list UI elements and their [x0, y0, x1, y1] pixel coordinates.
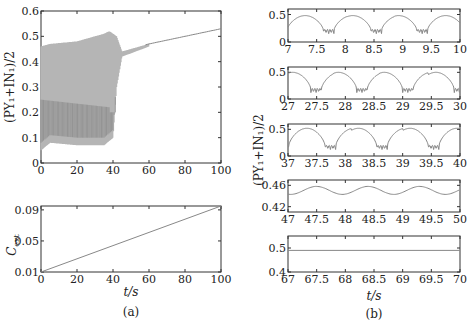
chart-figure: 02040608010000.10.20.30.40.50.6 02040608…	[0, 0, 469, 324]
x-tick-label: 80	[178, 164, 192, 177]
x-tick-label: 47.5	[304, 213, 329, 226]
caption-b: (b)	[365, 307, 382, 321]
y-tick-label: 0.5	[22, 30, 40, 43]
cext-line	[41, 206, 221, 272]
time-series-line	[288, 16, 460, 34]
x-tick-label: 37.5	[304, 157, 329, 170]
y-tick-label: 0.1	[22, 132, 40, 145]
steady-curve	[145, 29, 221, 45]
x-tick-label: 47	[281, 213, 295, 226]
x-tick-label: 48.5	[362, 213, 387, 226]
x-tick-label: 69.5	[419, 273, 444, 286]
x-tick-label: 67.5	[304, 273, 329, 286]
plot-frame	[288, 236, 460, 272]
x-tick-label: 30	[453, 100, 467, 113]
panel-a-top-plot: 02040608010000.10.20.30.40.50.6	[22, 5, 232, 177]
x-tick-label: 40	[106, 164, 120, 177]
y-tick-label: 0.6	[22, 5, 40, 18]
y-tick-label: 0.2	[22, 106, 40, 119]
x-tick-label: 49	[396, 213, 410, 226]
x-tick-label: 8.5	[365, 43, 383, 56]
x-tick-label: 39	[396, 157, 410, 170]
y-tick-label: 0	[279, 36, 286, 49]
x-tick-label: 7.5	[308, 43, 326, 56]
plot-frame	[288, 9, 460, 42]
y-tick-label: 0.5	[269, 123, 287, 136]
a-ylabel: (PY₁+IN₁)/2	[3, 51, 17, 123]
x-tick-label: 68.5	[362, 273, 387, 286]
y-tick-label: 0.5	[269, 9, 287, 22]
x-tick-label: 48	[338, 213, 352, 226]
y-tick-label: 0	[279, 150, 286, 163]
y-tick-label: 0.42	[262, 201, 287, 214]
x-tick-label: 20	[70, 273, 84, 286]
x-tick-label: 50	[453, 213, 467, 226]
x-tick-label: 20	[70, 164, 84, 177]
x-tick-label: 28.5	[362, 100, 387, 113]
x-tick-label: 49.5	[419, 213, 444, 226]
time-series-line	[288, 186, 459, 194]
y-tick-label: 0.09	[15, 204, 40, 217]
x-tick-label: 29.5	[419, 100, 444, 113]
plot-frame	[288, 180, 460, 212]
b-xlabel: t/s	[366, 289, 381, 303]
x-tick-label: 69	[396, 273, 410, 286]
x-tick-label: 80	[178, 273, 192, 286]
x-tick-label: 39.5	[419, 157, 444, 170]
y-tick-label: 0.5	[269, 242, 287, 255]
time-series-line	[288, 128, 460, 149]
a-bottom-ylabel: Cext	[5, 233, 21, 255]
x-tick-label: 9	[399, 43, 406, 56]
y-tick-label: 0.3	[22, 81, 40, 94]
x-tick-label: 28	[338, 100, 352, 113]
panel-a-bottom-plot: 0204060801000.010.050.09	[15, 204, 232, 286]
y-tick-label: 0.01	[15, 266, 40, 279]
x-tick-label: 9.5	[423, 43, 441, 56]
x-tick-label: 29	[396, 100, 410, 113]
x-tick-label: 40	[106, 273, 120, 286]
x-tick-label: 38	[338, 157, 352, 170]
x-tick-label: 8	[342, 43, 349, 56]
panel-b-plots: 77.588.599.51000.52727.52828.52929.53000…	[262, 9, 468, 287]
x-tick-label: 40	[453, 157, 467, 170]
x-tick-label: 60	[142, 273, 156, 286]
x-tick-label: 60	[142, 164, 156, 177]
x-tick-label: 68	[338, 273, 352, 286]
x-tick-label: 70	[453, 273, 467, 286]
y-tick-label: 0	[279, 93, 286, 106]
y-tick-label: 0	[32, 157, 39, 170]
y-tick-label: 0.4	[22, 56, 40, 69]
x-tick-label: 100	[211, 164, 232, 177]
y-tick-label: 0.5	[269, 66, 287, 79]
a-xlabel: t/s	[123, 285, 138, 299]
x-tick-label: 10	[453, 43, 467, 56]
time-series-line	[288, 72, 459, 92]
caption-a: (a)	[123, 305, 140, 319]
x-tick-label: 27.5	[304, 100, 329, 113]
x-tick-label: 100	[211, 273, 232, 286]
plot-frame	[288, 124, 460, 156]
b-ylabel: (PY₁+IN₁)/2	[252, 114, 266, 186]
x-tick-label: 38.5	[362, 157, 387, 170]
plot-frame	[288, 67, 460, 99]
y-tick-label: 0.4	[269, 266, 287, 279]
